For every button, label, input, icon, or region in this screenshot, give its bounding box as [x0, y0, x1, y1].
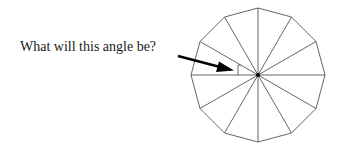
diagram-canvas: What will this angle be?: [0, 0, 343, 149]
center-point: [256, 73, 260, 77]
pointer-arrow: [178, 56, 234, 72]
angle-marker: [238, 65, 241, 75]
dodecagon-figure: [0, 0, 343, 149]
question-label: What will this angle be?: [20, 39, 156, 55]
